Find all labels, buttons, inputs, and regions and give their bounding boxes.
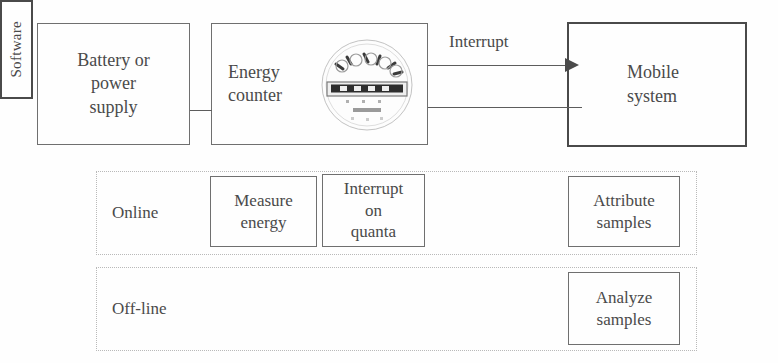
- mobile-system-label: Mobile system: [627, 61, 679, 107]
- analyze-samples-label: Analyze samples: [596, 287, 653, 331]
- energy-counter-label: Energy counter: [228, 61, 282, 107]
- battery-or-power-supply-label: Battery or power supply: [77, 49, 149, 118]
- software-box: Software: [0, 0, 33, 99]
- interrupt-arrow-label: Interrupt: [449, 32, 508, 52]
- attribute-samples-label: Attribute samples: [593, 190, 654, 234]
- interrupt-on-quanta-box: Interrupt on quanta: [322, 174, 425, 247]
- wire-interrupt-to-software: [428, 65, 574, 66]
- interrupt-on-quanta-label: Interrupt on quanta: [344, 178, 403, 243]
- lane-offline-title: Off-line: [112, 299, 166, 319]
- measure-energy-box: Measure energy: [210, 176, 317, 247]
- battery-or-power-supply-box: Battery or power supply: [37, 23, 190, 145]
- mobile-system-box: Mobile system: [567, 22, 747, 147]
- analyze-samples-box: Analyze samples: [568, 272, 680, 345]
- wire-battery-to-counter: [190, 110, 212, 111]
- diagram-canvas: Battery or power supply Energy counter: [0, 0, 778, 363]
- wire-counter-to-software-feedback: [428, 107, 582, 108]
- lane-online-title: Online: [112, 203, 158, 223]
- arrow-head-icon: [565, 58, 579, 72]
- software-label: Software: [8, 21, 25, 78]
- measure-energy-label: Measure energy: [234, 190, 293, 234]
- attribute-samples-box: Attribute samples: [568, 176, 680, 247]
- energy-meter-icon: [320, 38, 414, 132]
